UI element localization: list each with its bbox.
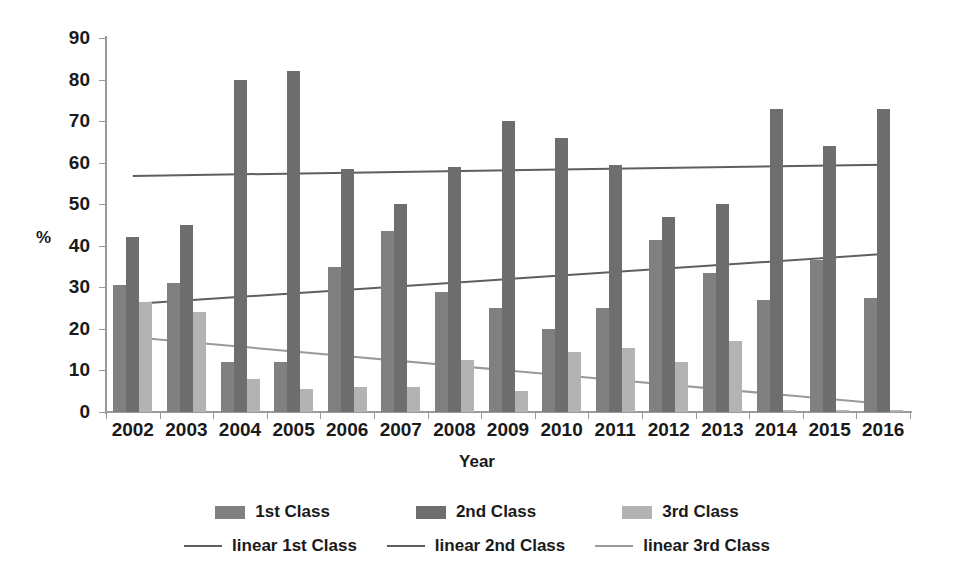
bar-group [328, 38, 367, 412]
y-axis-tick: 80 [99, 80, 106, 81]
y-axis-tick: 30 [99, 287, 106, 288]
y-axis-tick: 10 [99, 370, 106, 371]
bar [274, 362, 287, 412]
y-axis-title: % [36, 228, 51, 248]
legend-item[interactable]: linear 3rd Class [595, 536, 770, 556]
bar-group [703, 38, 742, 412]
legend-color-swatch-icon [622, 506, 652, 519]
x-axis-tick [856, 412, 857, 419]
x-axis-tick [374, 412, 375, 419]
bar [287, 71, 300, 412]
legend-color-swatch-icon [215, 506, 245, 519]
bar-group [864, 38, 903, 412]
legend-item[interactable]: 3rd Class [622, 502, 739, 522]
bar-group [381, 38, 420, 412]
legend-item-label: 1st Class [255, 502, 330, 522]
y-axis-tick: 70 [99, 121, 106, 122]
bar-group [221, 38, 260, 412]
x-axis-tick-label: 2004 [219, 419, 261, 441]
x-axis-tick-label: 2005 [272, 419, 314, 441]
x-axis-tick [213, 412, 214, 419]
legend-item[interactable]: linear 2nd Class [387, 536, 565, 556]
x-axis-tick-label: 2016 [862, 419, 904, 441]
bar-group [596, 38, 635, 412]
bar [448, 167, 461, 412]
bar [864, 298, 877, 412]
bar [461, 360, 474, 412]
chart-container: % Year 0102030405060708090 1st Class2nd … [0, 0, 954, 587]
legend-line-swatch-icon [595, 545, 633, 547]
bar [113, 285, 126, 412]
bar [649, 240, 662, 412]
x-axis-tick-label: 2003 [165, 419, 207, 441]
bar [489, 308, 502, 412]
bar [300, 389, 313, 412]
y-axis-tick: 0 [99, 412, 106, 413]
bar [354, 387, 367, 412]
bar [757, 300, 770, 412]
legend-line-swatch-icon [184, 545, 222, 547]
bar [167, 283, 180, 412]
x-axis-tick-label: 2014 [755, 419, 797, 441]
y-axis-tick: 40 [99, 246, 106, 247]
x-axis-tick-label: 2008 [433, 419, 475, 441]
bar-group [274, 38, 313, 412]
y-axis-tick-label: 40 [69, 235, 90, 257]
bar-group [542, 38, 581, 412]
bar [770, 109, 783, 412]
bar [341, 169, 354, 412]
bar [622, 348, 635, 412]
bar [234, 80, 247, 412]
bar [193, 312, 206, 412]
x-axis-tick-label: 2013 [701, 419, 743, 441]
legend-item[interactable]: linear 1st Class [184, 536, 357, 556]
y-axis-tick-label: 10 [69, 359, 90, 381]
bar [247, 379, 260, 412]
legend-item-label: linear 1st Class [232, 536, 357, 556]
bar [877, 109, 890, 412]
bar [435, 292, 448, 413]
y-axis-tick: 60 [99, 163, 106, 164]
bar [596, 308, 609, 412]
x-axis-tick-label: 2009 [487, 419, 529, 441]
legend-row-lines: linear 1st Classlinear 2nd Classlinear 3… [0, 529, 954, 563]
bar [126, 237, 139, 412]
y-axis-tick-label: 60 [69, 152, 90, 174]
y-axis-tick-label: 70 [69, 110, 90, 132]
bar [568, 352, 581, 412]
x-axis-tick [320, 412, 321, 419]
chart-legend: 1st Class2nd Class3rd Class linear 1st C… [0, 495, 954, 563]
bar [836, 410, 849, 412]
y-axis-tick: 90 [99, 38, 106, 39]
bar [407, 387, 420, 412]
x-axis-tick [803, 412, 804, 419]
x-axis-tick [588, 412, 589, 419]
bar [381, 231, 394, 412]
x-axis-tick-label: 2011 [595, 419, 636, 441]
legend-item-label: linear 3rd Class [643, 536, 770, 556]
x-axis-tick [481, 412, 482, 419]
legend-item[interactable]: 2nd Class [416, 502, 536, 522]
x-axis-tick [696, 412, 697, 419]
x-axis-tick [428, 412, 429, 419]
bar [675, 362, 688, 412]
x-axis-tick-label: 2002 [112, 419, 154, 441]
y-axis-tick-label: 90 [69, 27, 90, 49]
x-axis-tick [267, 412, 268, 419]
bar-group [649, 38, 688, 412]
bar [502, 121, 515, 412]
bar [609, 165, 622, 412]
bar-group [167, 38, 206, 412]
x-axis-tick-label: 2015 [808, 419, 850, 441]
legend-row-bars: 1st Class2nd Class3rd Class [0, 495, 954, 529]
bar [729, 341, 742, 412]
legend-item-label: linear 2nd Class [435, 536, 565, 556]
bar [180, 225, 193, 412]
bar-group [810, 38, 849, 412]
legend-item[interactable]: 1st Class [215, 502, 330, 522]
bar-group [435, 38, 474, 412]
y-axis-tick: 50 [99, 204, 106, 205]
y-axis-tick-label: 50 [69, 193, 90, 215]
plot-area: 0102030405060708090 [106, 38, 910, 412]
x-axis-tick [910, 412, 911, 419]
